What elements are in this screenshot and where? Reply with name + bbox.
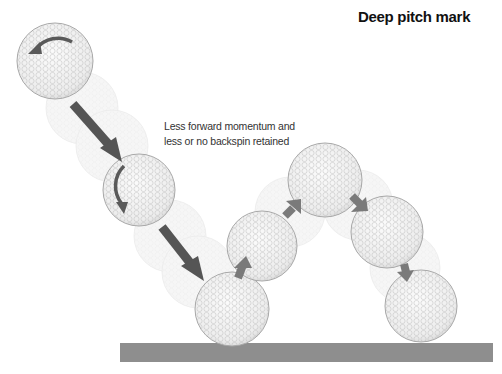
golf-ball bbox=[385, 270, 457, 342]
golf-ball bbox=[17, 23, 93, 99]
annotation-line-2: less or no backspin retained bbox=[164, 134, 295, 149]
diagram-canvas bbox=[0, 0, 502, 374]
deep-pitch-mark-diagram: Deep pitch mark Less forward momentum an… bbox=[0, 0, 502, 374]
golf-ball bbox=[103, 154, 175, 226]
ground-surface bbox=[120, 343, 493, 362]
diagram-title: Deep pitch mark bbox=[358, 8, 470, 25]
annotation-text: Less forward momentum and less or no bac… bbox=[164, 119, 295, 149]
annotation-line-1: Less forward momentum and bbox=[164, 119, 295, 134]
golf-balls bbox=[17, 23, 457, 346]
golf-ball bbox=[195, 272, 269, 346]
